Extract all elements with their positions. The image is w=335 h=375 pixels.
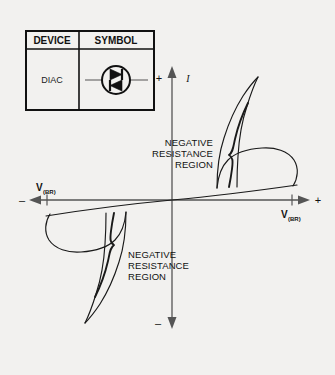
horizontal-positive-sign: + [315,194,321,206]
vertical-positive-sign: + [156,72,162,84]
lower-region-line2: RESISTANCE [128,260,189,271]
arrow-up-icon [168,66,177,78]
upper-region-line2: RESISTANCE [152,148,213,159]
diac-characteristic-figure: + I – – + V (BR) V (BR) [0,0,335,375]
upper-holding-current-curve [237,77,258,187]
axis-group [29,66,310,329]
legend-table: DEVICE SYMBOL DIAC [26,31,154,110]
legend-header-device: DEVICE [33,35,71,46]
upper-region-line3: REGION [175,159,213,170]
current-axis-label: I [185,73,190,84]
right-breakover-voltage-label: V [281,209,288,220]
diac-upper-triangle [110,69,122,80]
left-breakover-voltage-subscript: (BR) [43,189,56,195]
vertical-negative-sign: – [155,317,162,329]
horizontal-negative-sign: – [19,194,26,206]
diac-lower-triangle [110,80,122,91]
legend-device-name: DIAC [41,75,63,85]
diac-symbol-icon [85,66,148,94]
left-breakover-voltage-label: V [36,182,43,193]
lower-region-annotation: NEGATIVE RESISTANCE REGION [128,249,189,282]
lower-region-line3: REGION [128,271,166,282]
arrow-left-icon [29,196,41,205]
upper-region-line1: NEGATIVE [165,137,213,148]
arrow-right-icon [298,196,310,205]
arrow-down-icon [168,317,177,329]
lower-holding-current-curve [85,213,106,323]
figure-canvas: + I – – + V (BR) V (BR) [0,0,335,375]
lower-region-line1: NEGATIVE [128,249,176,260]
legend-header-symbol: SYMBOL [95,35,138,46]
diac-envelope-circle [102,66,130,94]
upper-region-annotation: NEGATIVE RESISTANCE REGION [152,137,213,170]
right-breakover-voltage-subscript: (BR) [288,216,301,222]
